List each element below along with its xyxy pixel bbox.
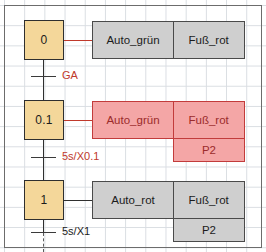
action-cell-auto-gruen[interactable]: Auto_grün: [92, 101, 174, 139]
step-box-0-1[interactable]: 0.1: [24, 100, 64, 140]
action-cell-auto-rot[interactable]: Auto_rot: [92, 181, 174, 219]
action-row: Auto_grün Fuß_rot: [92, 101, 245, 139]
connector-step-1-to-actions: [64, 200, 92, 201]
action-cell-text: Auto_rot: [111, 194, 154, 206]
connector-step-0-1-to-actions: [64, 120, 92, 121]
step-label-0: 0: [41, 33, 48, 47]
transition-bar-5s-x01[interactable]: [31, 157, 56, 158]
action-cell-p2[interactable]: P2: [173, 218, 245, 242]
transition-bar-ga[interactable]: [31, 76, 56, 77]
action-cell-fuss-rot[interactable]: Fuß_rot: [173, 181, 245, 219]
link-step-1-to-transition: [43, 220, 44, 232]
action-cell-text: Fuß_rot: [188, 194, 228, 206]
action-cell-fuss-rot[interactable]: Fuß_rot: [173, 21, 245, 59]
action-block-step-0: Auto_grün Fuß_rot: [92, 21, 245, 59]
action-cell-fuss-rot[interactable]: Fuß_rot: [173, 101, 245, 139]
action-cell-text: Fuß_rot: [188, 34, 228, 46]
step-label-0-1: 0.1: [35, 113, 52, 127]
action-row: P2: [173, 218, 245, 242]
action-row: Auto_rot Fuß_rot: [92, 181, 245, 219]
action-cell-p2[interactable]: P2: [173, 138, 245, 162]
action-row: P2: [173, 138, 245, 162]
action-cell-text: P2: [202, 144, 216, 156]
transition-label-5s-x1: 5s/X1: [62, 225, 90, 237]
action-cell-text: Fuß_rot: [188, 114, 228, 126]
step-box-1[interactable]: 1: [24, 180, 64, 220]
step-label-1: 1: [41, 193, 48, 207]
action-block-step-0-1: Auto_grün Fuß_rot P2: [92, 101, 245, 162]
sfc-diagram: 0 Auto_grün Fuß_rot GA 0.1 Auto_grün Fuß: [0, 0, 266, 252]
action-cell-text: Auto_grün: [106, 34, 159, 46]
action-cell-text: P2: [202, 224, 216, 236]
action-cell-auto-gruen[interactable]: Auto_grün: [92, 21, 174, 59]
action-cell-text: Auto_grün: [106, 114, 159, 126]
transition-label-5s-x01: 5s/X0.1: [62, 150, 99, 162]
action-block-step-1: Auto_rot Fuß_rot P2: [92, 181, 245, 242]
link-continuation-dashed: [43, 233, 44, 252]
step-box-0[interactable]: 0: [24, 20, 64, 60]
action-row: Auto_grün Fuß_rot: [92, 21, 245, 59]
connector-step-0-to-actions: [64, 40, 92, 41]
transition-label-ga: GA: [62, 69, 78, 81]
